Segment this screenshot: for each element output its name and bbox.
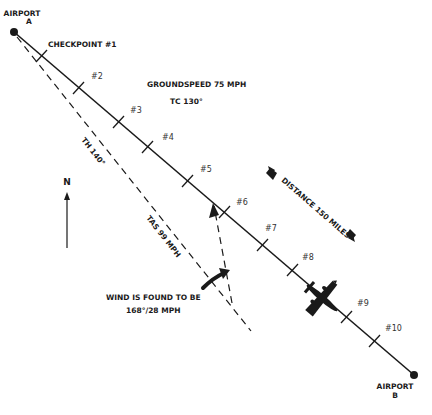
groundspeed-label: GROUNDSPEED 75 MPH xyxy=(147,80,246,89)
ground-track-arrowhead-icon xyxy=(209,203,219,218)
checkpoint-label-4: #4 xyxy=(162,133,174,142)
airport-b-dot xyxy=(410,371,418,379)
wind-label-line1: WIND IS FOUND TO BE xyxy=(106,293,201,302)
checkpoint-label-9: #9 xyxy=(357,299,369,308)
checkpoint-label-8: #8 xyxy=(302,253,314,262)
airport-a-label: AIRPORT xyxy=(4,9,42,18)
north-arrowhead-icon xyxy=(64,192,70,200)
checkpoint-label-5: #5 xyxy=(200,165,212,174)
distance-label: DISTANCE 150 MILES xyxy=(280,176,352,241)
true-heading-label: TH 140° xyxy=(79,136,107,168)
checkpoint-label-10: #10 xyxy=(385,324,402,333)
wind-vector-line xyxy=(214,206,232,303)
checkpoint-label-1: CHECKPOINT #1 xyxy=(48,40,116,49)
airport-a-letter: A xyxy=(26,17,32,26)
north-label: N xyxy=(63,177,71,187)
airport-a-dot xyxy=(10,28,18,36)
airport-b-letter: B xyxy=(392,391,398,400)
checkpoint-label-7: #7 xyxy=(265,224,277,233)
airplane-icon xyxy=(294,268,352,327)
wind-arrow-icon xyxy=(203,268,230,288)
wind-label-line2: 168°/28 MPH xyxy=(126,306,180,315)
checkpoint-label-2: #2 xyxy=(91,72,103,81)
checkpoint-label-6: #6 xyxy=(236,198,248,207)
checkpoint-label-3: #3 xyxy=(130,106,142,115)
airport-b-label: AIRPORT xyxy=(377,382,415,391)
true-course-label: TC 130° xyxy=(170,97,203,106)
navigation-diagram: AIRPORT A AIRPORT B CHECKPOINT #1 #2 #3 … xyxy=(0,0,432,415)
